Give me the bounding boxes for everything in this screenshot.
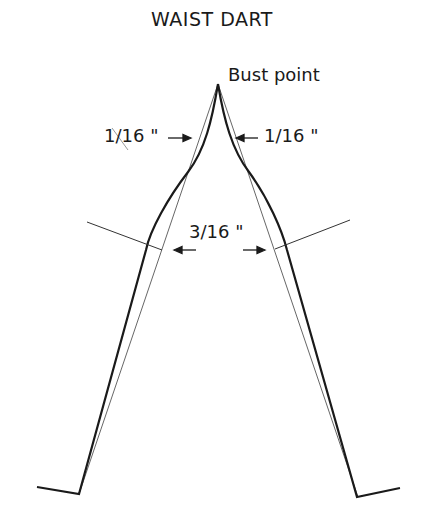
left-measure-label: 1/16 ": [104, 125, 158, 146]
curved-dart-legs: [37, 84, 400, 497]
right-measure-label: 1/16 ": [264, 125, 318, 146]
middle-measure-label: 3/16 ": [189, 221, 243, 242]
arrow-right-icon: [257, 247, 265, 254]
arrow-right-icon: [183, 135, 191, 142]
bust-point-label: Bust point: [228, 64, 320, 85]
waist-dart-drawing: [0, 0, 424, 526]
arrow-left-icon: [174, 247, 182, 254]
